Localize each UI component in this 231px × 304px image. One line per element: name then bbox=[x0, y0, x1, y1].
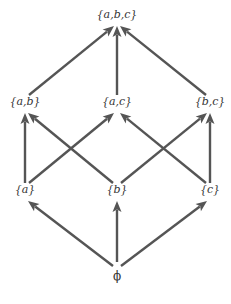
edge-c-to-ac bbox=[127, 119, 206, 183]
node-c: {c} bbox=[200, 183, 220, 196]
hasse-diagram: {a,b,c}{a,b}{a,c}{b,c}{a}{b}{c}ϕ bbox=[0, 0, 231, 304]
edge-bc-to-abc bbox=[127, 32, 206, 95]
edge-empty-to-a bbox=[35, 206, 113, 266]
node-ac: {a,c} bbox=[102, 95, 132, 108]
edge-empty-to-c bbox=[121, 206, 200, 266]
node-bc: {b,c} bbox=[195, 95, 226, 108]
node-b: {b} bbox=[106, 183, 127, 196]
node-ab: {a,b} bbox=[9, 95, 40, 108]
edges-layer bbox=[21, 26, 215, 266]
edge-b-to-ab bbox=[35, 119, 113, 183]
node-a: {a} bbox=[15, 183, 36, 196]
edge-ab-to-abc bbox=[29, 32, 107, 95]
edge-b-to-bc bbox=[121, 119, 200, 183]
node-empty: ϕ bbox=[113, 269, 121, 283]
node-abc: {a,b,c} bbox=[97, 8, 138, 21]
edge-a-to-ac bbox=[29, 119, 107, 183]
